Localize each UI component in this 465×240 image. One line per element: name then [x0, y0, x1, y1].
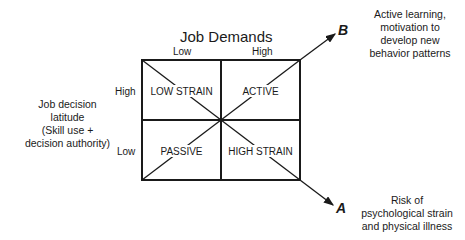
arrow-a-label: A: [336, 200, 346, 216]
y-axis-high-label: High: [115, 86, 136, 97]
arrow-a: [300, 180, 333, 205]
y-axis-title-line: decision authority): [20, 137, 115, 150]
quadrant-high-strain: HIGH STRAIN: [221, 146, 300, 157]
arrow-b-description-line: behavior patterns: [360, 47, 460, 60]
arrow-a-description-line: psychological strain: [352, 207, 462, 220]
arrow-a-description-line: and physical illness: [352, 220, 462, 233]
arrow-a-description-line: Risk of: [352, 194, 462, 207]
y-axis-title-line: Job decision: [20, 98, 115, 111]
arrow-b-description-line: motivation to: [360, 21, 460, 34]
arrow-b-description-line: develop new: [360, 34, 460, 47]
quadrant-passive: PASSIVE: [142, 146, 221, 157]
arrow-b-description: Active learning, motivation to develop n…: [360, 8, 460, 60]
x-axis-high-label: High: [252, 46, 273, 57]
arrow-b: [300, 34, 335, 60]
y-axis-title-line: latitude: [20, 111, 115, 124]
arrow-b-description-line: Active learning,: [360, 8, 460, 21]
y-axis-low-label: Low: [117, 146, 135, 157]
y-axis-title: Job decision latitude (Skill use + decis…: [20, 98, 115, 150]
quadrant-active: ACTIVE: [221, 86, 300, 97]
x-axis-low-label: Low: [173, 46, 191, 57]
arrow-b-label: B: [338, 22, 348, 38]
diagram-title: Job Demands: [180, 28, 273, 45]
y-axis-title-line: (Skill use +: [20, 124, 115, 137]
quadrant-low-strain: LOW STRAIN: [142, 86, 221, 97]
arrow-a-description: Risk of psychological strain and physica…: [352, 194, 462, 233]
